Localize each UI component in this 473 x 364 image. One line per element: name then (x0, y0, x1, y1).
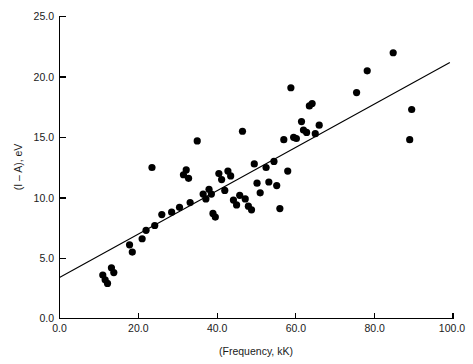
data-point (251, 160, 258, 167)
data-point (168, 209, 175, 216)
data-point (187, 199, 194, 206)
data-point (218, 176, 225, 183)
scatter-plot-figure: 25.0 20.0 15.0 10.0 5.0 0.0 0.0 20.0 40.… (0, 0, 473, 364)
data-point (242, 195, 249, 202)
data-point (104, 280, 111, 287)
data-point (253, 180, 260, 187)
y-tick-label: 10.0 (34, 192, 55, 204)
data-point (139, 235, 146, 242)
y-tick-marks (60, 17, 66, 319)
data-point (406, 136, 413, 143)
data-point (284, 168, 291, 175)
data-point (194, 137, 201, 144)
data-point (287, 84, 294, 91)
data-point (298, 118, 305, 125)
data-point (257, 189, 264, 196)
axes-group (59, 16, 453, 319)
x-tick-label: 60.0 (286, 322, 307, 334)
data-point (227, 172, 234, 179)
data-point (408, 106, 415, 113)
data-point (142, 227, 149, 234)
data-point (390, 49, 397, 56)
y-tick-label: 25.0 (34, 10, 55, 22)
data-point (158, 211, 165, 218)
data-point (126, 241, 133, 248)
data-point (110, 269, 117, 276)
data-point (151, 222, 158, 229)
data-point (148, 164, 155, 171)
data-point (316, 122, 323, 129)
x-tick-label: 40.0 (207, 322, 228, 334)
y-tick-label: 15.0 (34, 131, 55, 143)
data-point (202, 195, 209, 202)
data-point (208, 190, 215, 197)
data-point (309, 100, 316, 107)
data-point (183, 166, 190, 173)
x-tick-label: 100.0 (439, 322, 465, 334)
data-point (221, 187, 228, 194)
data-point (280, 136, 287, 143)
x-axis-title: (Frequency, kK) (219, 345, 293, 357)
plot-canvas: 25.0 20.0 15.0 10.0 5.0 0.0 0.0 20.0 40.… (0, 0, 473, 364)
data-point (129, 248, 136, 255)
data-point (303, 129, 310, 136)
data-point (276, 205, 283, 212)
y-axis-title: (I – A), eV (12, 144, 24, 191)
data-point (270, 158, 277, 165)
x-tick-labels: 0.0 20.0 40.0 60.0 80.0 100.0 (52, 322, 465, 334)
data-point (248, 206, 255, 213)
data-point (233, 201, 240, 208)
x-tick-label: 20.0 (128, 322, 149, 334)
x-tick-label: 0.0 (52, 322, 67, 334)
regression-line (60, 62, 450, 277)
data-point (273, 182, 280, 189)
x-tick-marks (60, 313, 454, 319)
data-point (176, 204, 183, 211)
data-point (312, 130, 319, 137)
y-tick-labels: 25.0 20.0 15.0 10.0 5.0 0.0 (34, 10, 55, 324)
y-tick-label: 20.0 (34, 71, 55, 83)
data-point (262, 164, 269, 171)
y-tick-label: 5.0 (39, 252, 54, 264)
data-point (265, 178, 272, 185)
data-point (293, 135, 300, 142)
data-point (212, 213, 219, 220)
x-tick-label: 80.0 (364, 322, 385, 334)
data-point (353, 89, 360, 96)
data-point (364, 67, 371, 74)
data-point (185, 175, 192, 182)
data-point (239, 128, 246, 135)
